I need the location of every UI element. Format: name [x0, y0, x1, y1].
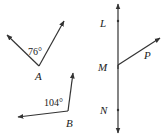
- line-lmn: L M N: [97, 4, 119, 133]
- label-l: L: [99, 17, 106, 29]
- angle-b-up-ray: [68, 73, 73, 111]
- angle-b-vertex-label: B: [66, 117, 73, 129]
- angle-b-left-ray: [18, 111, 68, 117]
- angle-b: 104° B: [18, 73, 73, 129]
- geometry-figure: 76° A 104° B L M N P: [0, 0, 164, 137]
- ray-mp-line: [118, 38, 160, 65]
- label-n: N: [99, 104, 108, 116]
- angle-a-vertex-label: A: [34, 70, 42, 82]
- point-n: [117, 109, 119, 111]
- point-l: [117, 20, 119, 22]
- angle-a-right-ray: [39, 21, 64, 66]
- ray-mp: P: [118, 38, 160, 65]
- label-p: P: [143, 49, 151, 61]
- angle-b-measure: 104°: [44, 97, 63, 108]
- figure-canvas: 76° A 104° B L M N P: [0, 0, 164, 137]
- label-m: M: [97, 61, 108, 73]
- angle-a-measure: 76°: [28, 46, 42, 57]
- angle-a: 76° A: [7, 21, 64, 82]
